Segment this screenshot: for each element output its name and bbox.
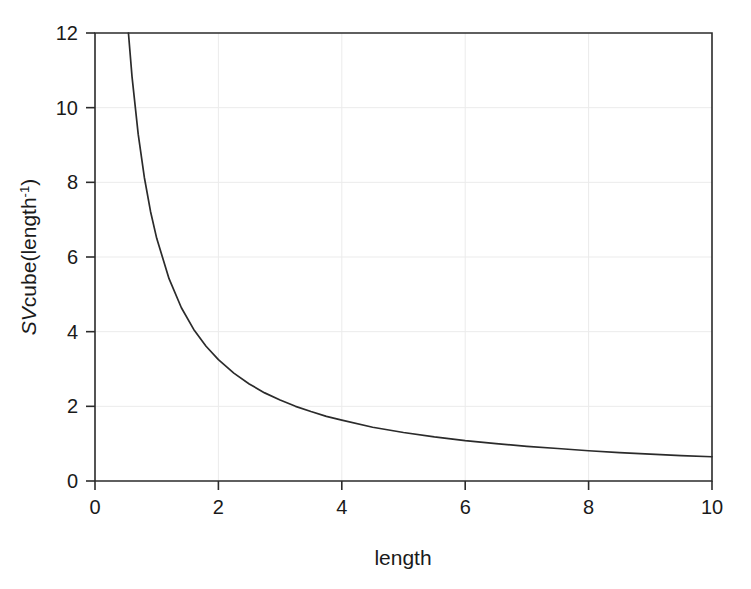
- y-tick-label: 2: [67, 395, 78, 417]
- y-axis-title-tail-part: ): [17, 179, 40, 186]
- x-tick-label: 6: [460, 496, 471, 518]
- y-axis-ticks: [86, 33, 95, 481]
- y-tick-label: 6: [67, 246, 78, 268]
- x-tick-label: 8: [583, 496, 594, 518]
- chart-figure: 024681012 0246810 length SVcube(length-1…: [0, 0, 751, 589]
- x-axis-tick-labels: 0246810: [89, 496, 723, 518]
- x-tick-label: 2: [213, 496, 224, 518]
- x-tick-label: 4: [336, 496, 347, 518]
- y-tick-label: 0: [67, 470, 78, 492]
- y-tick-label: 12: [56, 22, 78, 44]
- y-axis-title-main-part: cube(length: [17, 197, 40, 307]
- y-axis-title-superscript: -1: [17, 186, 32, 198]
- x-axis-ticks: [95, 481, 712, 490]
- x-axis-title: length: [374, 546, 431, 569]
- y-axis-title-italic-part: SV: [17, 305, 40, 335]
- y-tick-label: 10: [56, 97, 78, 119]
- y-axis-tick-labels: 024681012: [56, 22, 78, 492]
- gridlines-group: [95, 33, 712, 481]
- chart-canvas: 024681012 0246810 length SVcube(length-1…: [0, 0, 751, 589]
- y-tick-label: 4: [67, 321, 78, 343]
- x-tick-label: 10: [701, 496, 723, 518]
- svg-text:SVcube(length-1): SVcube(length-1): [17, 179, 40, 335]
- y-axis-title: SVcube(length-1): [17, 179, 40, 335]
- x-tick-label: 0: [89, 496, 100, 518]
- data-curve: [128, 33, 712, 457]
- y-tick-label: 8: [67, 171, 78, 193]
